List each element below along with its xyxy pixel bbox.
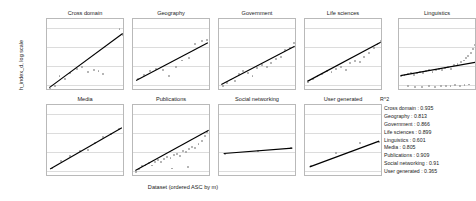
trend-line	[133, 19, 210, 90]
r2-legend-item: Government : 0.866	[380, 121, 439, 129]
plot-area: 10100100010000	[46, 18, 124, 90]
trend-line	[47, 19, 124, 90]
plot-area	[304, 18, 382, 90]
figure: h_index_d, log scale Dataset (ordered AS…	[0, 0, 476, 201]
panel-title: Linguistics	[398, 10, 476, 17]
plot-area	[132, 18, 210, 90]
panel-title: Life sciences	[304, 10, 382, 17]
trend-line	[399, 19, 476, 90]
panel-title: User generated	[304, 96, 382, 103]
r2-legend-item: Cross domain : 0.935	[380, 105, 439, 113]
panel-title: Geography	[132, 10, 210, 17]
plot-area	[304, 104, 382, 176]
r2-legend-item: Publications : 0.909	[380, 152, 439, 160]
plot-area: 10100100010000	[46, 104, 124, 176]
trend-line	[305, 19, 382, 90]
r2-legend-item: Linguistics : 0.601	[380, 137, 439, 145]
y-axis-title: h_index_d, log scale	[18, 10, 24, 120]
r2-legend-item: Life sciences : 0.899	[380, 129, 439, 137]
plot-area	[218, 104, 296, 176]
plot-area	[132, 104, 210, 176]
trend-line	[219, 19, 296, 90]
panel-title: Publications	[132, 96, 210, 103]
trend-line	[133, 105, 210, 176]
r2-legend: R^2 Cross domain : 0.935Geography : 0.81…	[380, 96, 439, 176]
trend-line	[47, 105, 124, 176]
trend-line	[219, 105, 296, 176]
r2-legend-item: Media : 0.805	[380, 144, 439, 152]
x-axis-title: Dataset (ordered ASC by m)	[0, 184, 366, 190]
panel-title: Media	[46, 96, 124, 103]
r2-legend-heading: R^2	[380, 96, 439, 104]
r2-legend-rows: Cross domain : 0.935Geography : 0.813Gov…	[380, 105, 439, 176]
r2-legend-item: User generated : 0.365	[380, 168, 439, 176]
r2-legend-item: Social networking : 0.91	[380, 160, 439, 168]
r2-legend-item: Geography : 0.813	[380, 113, 439, 121]
plot-area	[218, 18, 296, 90]
panel-title: Social networking	[218, 96, 296, 103]
plot-area	[398, 18, 476, 90]
trend-line	[305, 105, 382, 176]
panel-title: Government	[218, 10, 296, 17]
panel-title: Cross domain	[46, 10, 124, 17]
